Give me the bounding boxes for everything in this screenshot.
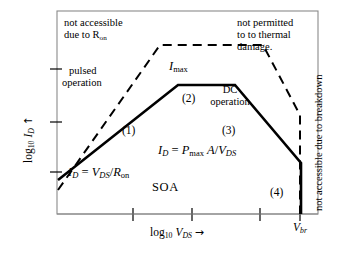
y-axis-label-text: log10 ID ↑ xyxy=(22,116,34,163)
annotation-pulsed-line2: operation xyxy=(62,77,102,89)
annotation-pulsed-line1: pulsed xyxy=(62,65,102,77)
vbr-tick-label: Vbr xyxy=(293,221,307,235)
region-label-1: (1) xyxy=(122,124,135,137)
equation-ron: ID = VDS/Ron xyxy=(68,165,129,180)
region-label-2: (2) xyxy=(182,92,195,105)
imax-label: Imax xyxy=(169,59,188,74)
x-axis-label: log10 VDS → xyxy=(150,226,204,240)
annotation-not-accessible-ron-line1: not accessible xyxy=(64,17,123,29)
annotation-pulsed-operation: pulsed operation xyxy=(62,65,102,89)
annotation-dc-line2: operation xyxy=(200,96,260,108)
region-label-4: (4) xyxy=(270,186,283,199)
annotation-breakdown-text: not accessible due to breakdown xyxy=(313,75,324,211)
annotation-thermal-line2: to to thermal xyxy=(237,29,293,41)
annotation-thermal-line3: damage. xyxy=(237,41,293,53)
annotation-not-permitted-thermal: not permitted to to thermal damage. xyxy=(237,17,293,52)
annotation-not-accessible-ron-line2: due to Ron xyxy=(64,29,123,42)
soa-figure: log10 ID ↑ log10 VDS → Vbr not accessibl… xyxy=(0,0,341,255)
annotation-dc-line1: DC xyxy=(200,84,260,96)
annotation-not-accessible-ron: not accessible due to Ron xyxy=(64,17,123,41)
equation-pmax: ID = Pmax A/VDS xyxy=(158,143,236,158)
annotation-dc-operation: DC operation xyxy=(200,84,260,108)
region-label-3: (3) xyxy=(222,124,235,137)
annotation-thermal-line1: not permitted xyxy=(237,17,293,29)
x-axis-label-text: log10 VDS → xyxy=(150,226,204,238)
soa-label: SOA xyxy=(152,180,179,194)
